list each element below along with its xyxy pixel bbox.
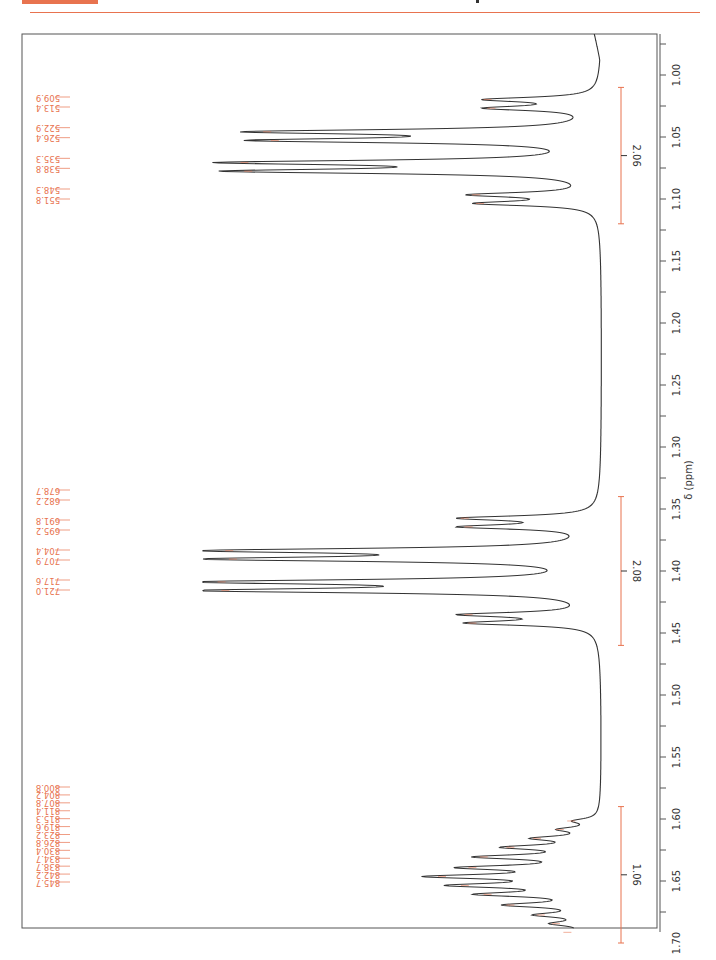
peak-label: 691.8	[36, 516, 60, 526]
tick-label: 1.65	[671, 870, 682, 892]
ppm-axis-ticks: 1.001.051.101.151.201.251.301.351.401.45…	[660, 44, 682, 954]
peak-label: 513.4	[36, 103, 60, 113]
peak-labels: 509.9513.4522.9526.4535.3538.8548.3551.8…	[36, 93, 70, 888]
peak-label: 704.4	[36, 546, 60, 556]
peak-label: 509.9	[36, 93, 60, 103]
nmr-spectrum-chart: 1.001.051.101.151.201.251.301.351.401.45…	[0, 0, 716, 960]
tick-label: 1.00	[671, 64, 682, 86]
integral-value: 2.08	[631, 560, 642, 582]
plot-frame	[22, 34, 657, 928]
tick-label: 1.30	[671, 436, 682, 458]
tick-label: 1.60	[671, 808, 682, 830]
integral-value: 1.06	[631, 864, 642, 886]
peak-label: 551.8	[36, 195, 60, 205]
peak-label: 538.8	[36, 164, 60, 174]
peak-label: 678.7	[36, 486, 60, 496]
tick-label: 1.35	[671, 498, 682, 520]
integral-value: 2.06	[631, 144, 642, 166]
tick-label: 1.20	[671, 312, 682, 334]
peak-label: 548.3	[36, 185, 60, 195]
tick-label: 1.05	[671, 126, 682, 148]
tick-label: 1.25	[671, 374, 682, 396]
tick-label: 1.70	[671, 932, 682, 954]
tick-label: 1.45	[671, 622, 682, 644]
axis-title: δ (ppm)	[683, 460, 694, 500]
tick-label: 1.40	[671, 560, 682, 582]
tick-label: 1.55	[671, 746, 682, 768]
tick-label: 1.10	[671, 188, 682, 210]
peak-label: 707.9	[36, 556, 60, 566]
integral-markers: 2.062.081.06	[618, 87, 642, 943]
peak-label: 695.2	[36, 526, 60, 536]
peak-label: 682.2	[36, 496, 60, 506]
peak-label: 526.4	[36, 133, 60, 143]
spectrum-trace	[203, 34, 601, 932]
peak-label: 845.7	[36, 878, 60, 888]
peak-label: 717.6	[36, 576, 60, 586]
peak-label: 522.9	[36, 123, 60, 133]
peak-label: 721.0	[36, 586, 60, 596]
peak-label: 535.3	[36, 154, 60, 164]
tick-label: 1.15	[671, 250, 682, 272]
tick-label: 1.50	[671, 684, 682, 706]
